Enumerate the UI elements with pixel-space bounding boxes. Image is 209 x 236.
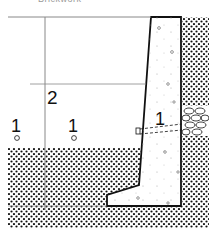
- label-height-2: 2: [47, 87, 58, 108]
- label-left-1: 1: [11, 116, 21, 136]
- label-wall-1: 1: [155, 109, 165, 129]
- marker-mid: [72, 136, 77, 141]
- drainage-stones: [182, 106, 209, 136]
- retaining-wall-diagram: 2 1 1 1: [0, 0, 209, 236]
- label-mid-1: 1: [68, 116, 78, 136]
- marker-left: [15, 136, 20, 141]
